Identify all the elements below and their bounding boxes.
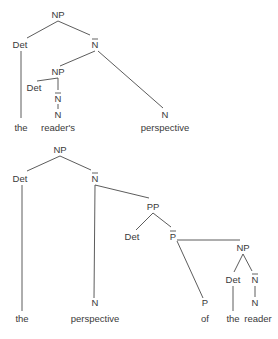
terminal-word: reader: [244, 313, 271, 324]
category-node: NP: [53, 144, 66, 155]
tree-branch: [136, 213, 153, 230]
category-node: N: [252, 297, 259, 308]
tree-perspective-of-the-reader: NPDetNPPDetPNPDetNNPNtheperspectiveofthe…: [13, 144, 272, 324]
terminal-word: perspective: [71, 313, 120, 324]
tree-branch: [98, 51, 163, 108]
category-node: PP: [147, 201, 160, 212]
category-node: Det: [13, 39, 28, 50]
tree-branch: [27, 156, 60, 171]
tree-branch: [95, 185, 149, 198]
category-node: N: [92, 39, 99, 50]
tree-branch: [94, 185, 95, 298]
category-node: N: [162, 109, 169, 120]
category-node: Det: [27, 82, 42, 93]
terminal-word: reader's: [41, 122, 75, 133]
terminal-word: the: [226, 313, 239, 324]
category-node: Det: [226, 274, 241, 285]
tree-branch: [27, 21, 58, 38]
category-node: Det: [125, 231, 140, 242]
category-node: P: [170, 231, 176, 242]
tree-branch: [37, 78, 58, 81]
tree-readers-perspective: NPDetNNPDetNNNthereader'sperspective: [13, 9, 190, 133]
category-node: N: [55, 93, 62, 104]
tree-branch: [234, 254, 243, 272]
category-node: NP: [51, 9, 64, 20]
syntax-tree-diagram: NPDetNNPDetNNNthereader'sperspective NPD…: [0, 0, 278, 339]
category-node: N: [55, 109, 62, 120]
category-node: NP: [236, 242, 249, 253]
category-node: N: [92, 297, 99, 308]
tree-branch: [243, 254, 252, 271]
tree-branch: [153, 213, 171, 227]
terminal-word: the: [15, 313, 28, 324]
tree-branch: [177, 241, 203, 298]
category-node: N: [92, 173, 99, 184]
tree-branch: [58, 21, 90, 35]
terminal-word: the: [14, 122, 27, 133]
tree-branch: [60, 51, 95, 66]
category-node: Det: [13, 173, 28, 184]
category-node: NP: [51, 66, 64, 77]
terminal-word: perspective: [141, 122, 190, 133]
terminal-word: of: [201, 313, 209, 324]
tree-branch: [60, 156, 91, 170]
category-node: P: [202, 297, 208, 308]
category-node: N: [252, 274, 259, 285]
